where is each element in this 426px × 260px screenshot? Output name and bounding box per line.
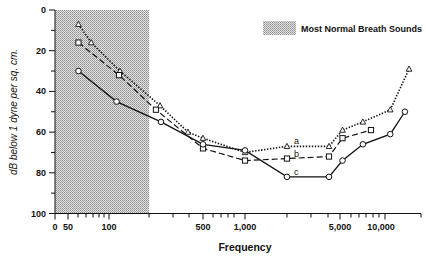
x-tick-label: 500 (195, 222, 210, 232)
y-axis: 020406080100 (31, 5, 55, 219)
square-marker (116, 73, 121, 78)
circle-marker (76, 68, 82, 74)
x-tick-label: 0 (52, 222, 57, 232)
curve-label-a: a (294, 136, 299, 146)
square-marker (284, 156, 289, 161)
circle-marker (114, 99, 120, 105)
circle-marker (284, 174, 290, 180)
circle-marker (387, 131, 393, 137)
square-marker (368, 127, 373, 132)
y-tick-label: 20 (36, 46, 46, 56)
square-marker (326, 154, 331, 159)
triangle-marker (387, 107, 393, 112)
square-marker (153, 107, 158, 112)
square-marker (76, 40, 81, 45)
normal-breath-region (55, 10, 149, 214)
x-tick-label: 5,000 (329, 222, 352, 232)
x-axis: 0501005001,0005,00010,000 (52, 214, 421, 233)
x-tick-label: 10,000 (367, 222, 395, 232)
y-tick-label: 40 (36, 86, 46, 96)
y-tick-label: 100 (31, 209, 46, 219)
legend: Most Normal Breath Sounds (263, 21, 422, 35)
circle-marker (200, 142, 206, 148)
triangle-marker (406, 66, 412, 71)
curve-label-c: c (294, 167, 299, 177)
circle-marker (340, 158, 346, 164)
x-tick-label: 50 (63, 222, 73, 232)
y-axis-title: dB below 1 dyne per sq. cm. (8, 49, 19, 175)
legend-swatch (263, 21, 296, 35)
x-tick-label: 1,000 (234, 222, 257, 232)
circle-marker (242, 148, 248, 154)
square-marker (242, 158, 247, 163)
curve-label-b: b (294, 149, 299, 159)
legend-label: Most Normal Breath Sounds (301, 24, 422, 34)
y-tick-label: 0 (41, 5, 46, 15)
y-tick-label: 60 (36, 127, 46, 137)
circle-marker (402, 109, 408, 115)
breath-sound-frequency-chart: 020406080100 0501005001,0005,00010,000 a… (0, 0, 426, 260)
triangle-marker (360, 119, 366, 124)
x-tick-label: 100 (101, 222, 116, 232)
square-marker (340, 136, 345, 141)
circle-marker (360, 142, 366, 148)
circle-marker (326, 174, 332, 180)
x-axis-title: Frequency (218, 241, 271, 253)
circle-marker (158, 119, 164, 125)
y-tick-label: 80 (36, 168, 46, 178)
